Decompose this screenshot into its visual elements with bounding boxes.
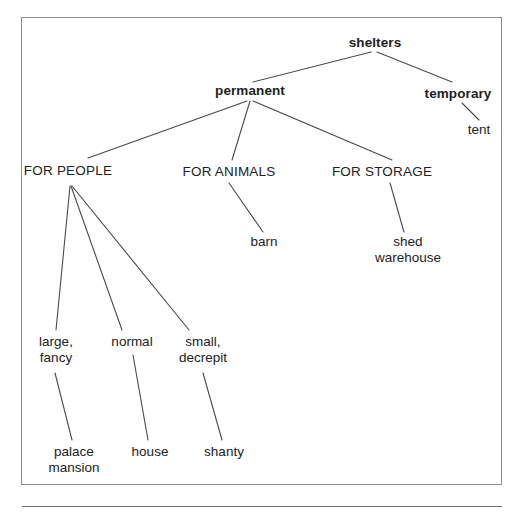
node-barn: barn — [250, 234, 277, 250]
node-temporary: temporary — [425, 86, 492, 102]
node-shelters: shelters — [349, 35, 402, 51]
node-large-fancy: large, fancy — [39, 334, 73, 366]
node-shed-warehouse: shed warehouse — [375, 234, 441, 266]
node-tent: tent — [468, 122, 491, 138]
node-permanent: permanent — [215, 83, 285, 99]
bottom-divider — [22, 506, 502, 507]
node-shanty: shanty — [204, 444, 244, 460]
figure-canvas: shelters permanent temporary tent FOR PE… — [0, 0, 523, 526]
node-house: house — [132, 444, 169, 460]
node-for-storage: FOR STORAGE — [332, 164, 432, 180]
node-small-decrepit: small, decrepit — [179, 334, 227, 366]
node-for-people: FOR PEOPLE — [24, 163, 112, 179]
node-palace-mansion: palace mansion — [48, 444, 99, 476]
node-for-animals: FOR ANIMALS — [183, 164, 276, 180]
node-normal: normal — [111, 334, 152, 350]
